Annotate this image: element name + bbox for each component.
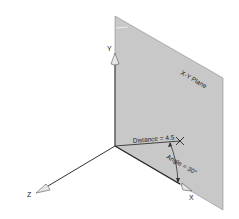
x-axis-label: X	[189, 194, 194, 201]
xy-plane	[115, 16, 223, 210]
y-axis-label: Y	[107, 45, 112, 52]
z-axis-arrow-icon	[36, 184, 50, 193]
z-axis-line	[48, 146, 115, 186]
coordinate-system-diagram: Y Z X X-Y Plane Distance = 4.5 Angle = 3…	[0, 0, 239, 219]
z-axis-label: Z	[27, 191, 32, 198]
